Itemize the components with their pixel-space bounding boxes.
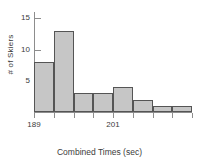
bar bbox=[74, 93, 94, 112]
bar bbox=[153, 106, 173, 112]
x-tick-mark bbox=[113, 113, 114, 118]
bar bbox=[54, 31, 74, 112]
bar bbox=[172, 106, 192, 112]
y-tick-mark bbox=[35, 50, 41, 51]
x-tick-mark bbox=[54, 113, 55, 118]
y-tick-mark bbox=[35, 18, 41, 19]
bar bbox=[113, 87, 133, 112]
bar bbox=[34, 62, 54, 112]
x-tick-mark bbox=[133, 113, 134, 118]
bar bbox=[93, 93, 113, 112]
x-axis-title: Combined Times (sec) bbox=[0, 147, 199, 157]
x-tick-mark bbox=[192, 113, 193, 118]
x-tick-mark bbox=[153, 113, 154, 118]
x-tick-label: 189 bbox=[27, 120, 40, 129]
histogram-chart: # of Skiers 51015 189201 Combined Times … bbox=[0, 0, 199, 166]
x-tick-mark bbox=[34, 113, 35, 118]
y-tick-label: 5 bbox=[26, 76, 30, 85]
x-tick-mark bbox=[93, 113, 94, 118]
y-tick-label: 15 bbox=[21, 13, 30, 22]
y-tick-label: 10 bbox=[21, 45, 30, 54]
x-tick-mark bbox=[74, 113, 75, 118]
plot-area: 51015 189201 bbox=[34, 12, 192, 113]
x-tick-label: 201 bbox=[106, 120, 119, 129]
y-axis-title: # of Skiers bbox=[6, 24, 15, 86]
x-tick-mark bbox=[172, 113, 173, 118]
bar bbox=[133, 100, 153, 113]
